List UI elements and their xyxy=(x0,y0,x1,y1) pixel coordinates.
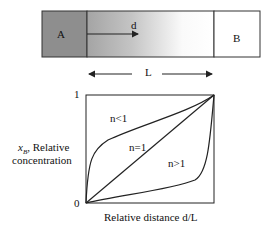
length-label: L xyxy=(145,67,152,78)
diagram-canvas xyxy=(0,0,272,232)
y-tick-1: 1 xyxy=(74,89,80,100)
annotation-n-less-than-1: n<1 xyxy=(110,113,127,124)
distance-label: d xyxy=(131,20,137,31)
annotation-n-greater-than-1: n>1 xyxy=(168,158,185,169)
curve-n-equals-1 xyxy=(86,95,214,203)
annotation-n-equals-1: n=1 xyxy=(129,142,146,153)
region-a-label: A xyxy=(57,29,65,40)
x-axis-label: Relative distance d/L xyxy=(104,212,197,223)
region-b-label: B xyxy=(233,33,240,44)
y-axis-label-line2: concentration xyxy=(12,155,72,166)
y-tick-0: 0 xyxy=(74,198,80,209)
